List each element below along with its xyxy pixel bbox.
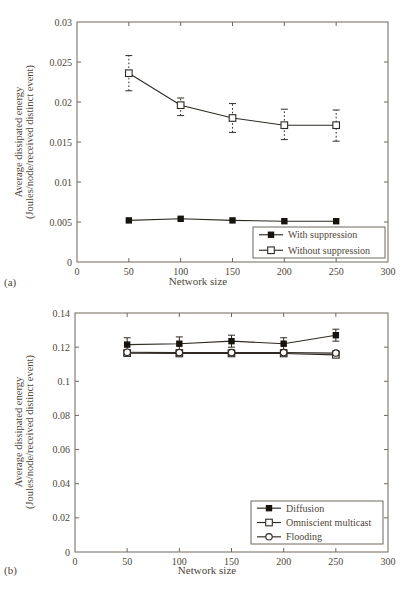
chart-a-series-with-suppression-filled-square-marker bbox=[177, 216, 183, 222]
chart-a-x-tick-label: 250 bbox=[329, 266, 344, 277]
charts-canvas: 05010015020025030000.0050.010.0150.020.0… bbox=[0, 0, 413, 594]
chart-a-legend-without-suppression-label: Without suppression bbox=[288, 245, 370, 256]
chart-b-x-tick-label: 250 bbox=[328, 556, 343, 567]
chart-b-y-axis-title-line1: Average dissipated energy bbox=[13, 307, 24, 557]
chart-a-y-axis-title-line2: (Joules/node/received distinct event) bbox=[24, 17, 35, 267]
chart-a-legend-with-suppression-filled-square-marker bbox=[268, 232, 274, 238]
chart-a-x-tick-label: 50 bbox=[124, 266, 134, 277]
chart-a-series-with-suppression-filled-square-marker bbox=[229, 217, 235, 223]
chart-b-y-tick-label: 0.1 bbox=[58, 376, 71, 387]
chart-b-legend-flooding-open-circle-marker bbox=[266, 534, 272, 540]
chart-b-y-tick-label: 0.08 bbox=[53, 410, 71, 421]
chart-b-legend-flooding-label: Flooding bbox=[286, 531, 322, 542]
chart-b-y-tick-label: 0.06 bbox=[53, 444, 71, 455]
chart-b-y-tick-label: 0.14 bbox=[53, 308, 71, 319]
chart-b-y-axis-title-line2: (Joules/node/received distinct event) bbox=[24, 307, 35, 557]
chart-b-series-flooding-open-circle-marker bbox=[228, 349, 234, 355]
chart-a-x-axis-title: Network size bbox=[138, 275, 258, 287]
chart-b-y-tick-label: 0.12 bbox=[53, 342, 71, 353]
chart-a-x-tick-label: 300 bbox=[381, 266, 396, 277]
chart-b-legend-diffusion-label: Diffusion bbox=[286, 503, 324, 514]
chart-a-y-axis-title-line1: Average dissipated energy bbox=[13, 17, 24, 267]
chart-a-series-with-suppression-filled-square-marker bbox=[333, 218, 339, 224]
chart-b-series-flooding-open-circle-marker bbox=[333, 350, 339, 356]
panel-label-a: (a) bbox=[4, 276, 16, 288]
chart-a-plot-frame bbox=[77, 22, 388, 262]
chart-b-x-tick-label: 200 bbox=[276, 556, 291, 567]
chart-b-y-tick-label: 0 bbox=[65, 547, 70, 558]
chart-b-series-diffusion-filled-square-marker bbox=[280, 341, 286, 347]
chart-a-series-without-suppression-open-square-marker bbox=[229, 115, 236, 122]
chart-b-y-axis-title: Average dissipated energy (Joules/node/r… bbox=[13, 307, 35, 557]
chart-a-y-tick-label: 0.005 bbox=[50, 217, 73, 228]
chart-a-series-without-suppression-open-square-marker bbox=[177, 102, 184, 109]
chart-a-y-tick-label: 0.025 bbox=[50, 57, 73, 68]
chart-b-legend-omniscient-multicast-label: Omniscient multicast bbox=[286, 517, 371, 528]
chart-b-series-flooding-open-circle-marker bbox=[280, 349, 286, 355]
chart-a-x-tick-label: 200 bbox=[277, 266, 292, 277]
chart-a-series-without-suppression-open-square-marker bbox=[281, 122, 288, 129]
panel-label-b: (b) bbox=[4, 564, 17, 576]
chart-b-series-diffusion-filled-square-marker bbox=[228, 338, 234, 344]
chart-b-series-flooding-open-circle-marker bbox=[124, 349, 130, 355]
chart-b-series-diffusion-filled-square-marker bbox=[176, 341, 182, 347]
chart-b-y-tick-label: 0.04 bbox=[53, 478, 71, 489]
chart-b-series-diffusion-filled-square-marker bbox=[333, 332, 339, 338]
chart-a-y-tick-label: 0.01 bbox=[55, 177, 73, 188]
chart-a-legend-without-suppression-open-square-marker bbox=[268, 247, 275, 254]
chart-b-x-tick-label: 50 bbox=[122, 556, 132, 567]
chart-b-y-tick-label: 0.02 bbox=[53, 512, 71, 523]
chart-a-y-tick-label: 0.015 bbox=[50, 137, 73, 148]
chart-a-y-axis-title: Average dissipated energy (Joules/node/r… bbox=[13, 17, 35, 267]
figure-energy-vs-network-size: 05010015020025030000.0050.010.0150.020.0… bbox=[0, 0, 413, 594]
chart-b-series-diffusion-filled-square-marker bbox=[124, 341, 130, 347]
chart-a-series-without-suppression-open-square-marker bbox=[333, 122, 340, 129]
chart-b-x-tick-label: 0 bbox=[73, 556, 78, 567]
chart-a-series-without-suppression-open-square-marker bbox=[126, 70, 133, 77]
chart-b-x-axis-title: Network size bbox=[147, 564, 267, 576]
chart-b-series-flooding-open-circle-marker bbox=[176, 349, 182, 355]
chart-b-legend-diffusion-filled-square-marker bbox=[266, 505, 272, 511]
chart-b-x-tick-label: 300 bbox=[381, 556, 396, 567]
chart-a-y-tick-label: 0.03 bbox=[55, 17, 73, 28]
chart-a-series-with-suppression-filled-square-marker bbox=[281, 218, 287, 224]
chart-a-y-tick-label: 0.02 bbox=[55, 97, 73, 108]
chart-b-legend-omniscient-multicast-open-square-marker bbox=[266, 519, 273, 526]
chart-a-legend-with-suppression-label: With suppression bbox=[288, 229, 357, 240]
chart-a-series-with-suppression-filled-square-marker bbox=[126, 217, 132, 223]
chart-a-y-tick-label: 0 bbox=[67, 257, 72, 268]
chart-a-x-tick-label: 0 bbox=[75, 266, 80, 277]
